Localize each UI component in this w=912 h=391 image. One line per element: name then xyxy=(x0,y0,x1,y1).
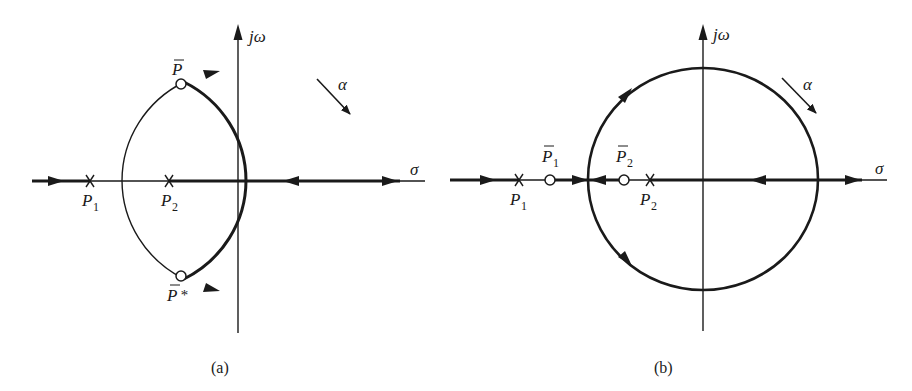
svg-text:P: P xyxy=(81,191,92,210)
svg-text:P: P xyxy=(171,60,182,79)
label-p2: P 2 xyxy=(160,191,178,214)
label-p1: P 1 xyxy=(509,190,527,213)
arrow-right-icon xyxy=(572,175,588,185)
imag-axis-label: jω xyxy=(711,25,730,44)
arrow-right-icon xyxy=(845,175,861,185)
label-p1: P 1 xyxy=(81,191,99,214)
svg-text:P: P xyxy=(615,147,626,166)
label-p-bar: P xyxy=(171,60,184,79)
svg-text:P: P xyxy=(639,190,650,209)
real-axis-label: σ xyxy=(410,160,419,179)
panel-b: jω σ α P 1 P 2 P 1 P 2 (b) xyxy=(450,24,887,377)
alpha-label: α xyxy=(338,75,348,94)
zero-marker-p2-bar xyxy=(619,175,629,185)
arrow-right-icon xyxy=(382,176,398,186)
arrow-upper-icon xyxy=(203,70,220,79)
label-p2: P 2 xyxy=(639,190,657,213)
real-axis-label: σ xyxy=(875,159,884,178)
caption-a: (a) xyxy=(211,359,229,377)
svg-text:1: 1 xyxy=(521,199,527,213)
imag-axis-label: jω xyxy=(247,27,266,46)
arrow-left-icon xyxy=(283,176,299,186)
svg-text:P: P xyxy=(509,190,520,209)
svg-text:2: 2 xyxy=(172,200,178,214)
arrow-left-icon xyxy=(750,175,766,185)
svg-text:1: 1 xyxy=(553,156,559,170)
label-p-bar-conj: P * xyxy=(166,285,188,305)
zero-marker-p1-bar xyxy=(545,175,555,185)
label-p1-bar: P 1 xyxy=(541,146,559,170)
zero-marker-p-bar-conj xyxy=(176,271,186,281)
svg-text:*: * xyxy=(180,287,188,303)
label-p2-bar: P 2 xyxy=(615,146,633,170)
arrow-lower-icon xyxy=(618,251,632,266)
panel-a: jω σ α P 1 P 2 P P * (a) xyxy=(32,24,425,377)
svg-text:2: 2 xyxy=(627,156,633,170)
svg-text:1: 1 xyxy=(93,200,99,214)
zero-marker-p-bar xyxy=(176,79,186,89)
arrow-lower-icon xyxy=(203,283,220,292)
root-locus-figure: jω σ α P 1 P 2 P P * (a) xyxy=(0,0,912,391)
svg-text:2: 2 xyxy=(651,199,657,213)
alpha-label: α xyxy=(803,75,813,94)
arrow-right-icon xyxy=(48,176,64,186)
svg-text:P: P xyxy=(541,147,552,166)
imag-axis-arrow-icon xyxy=(699,24,708,40)
caption-b: (b) xyxy=(654,359,673,377)
arrow-right-icon xyxy=(480,175,496,185)
arrow-left-icon xyxy=(590,175,606,185)
svg-text:P: P xyxy=(166,286,177,305)
imag-axis-arrow-icon xyxy=(234,24,243,40)
svg-text:P: P xyxy=(160,191,171,210)
